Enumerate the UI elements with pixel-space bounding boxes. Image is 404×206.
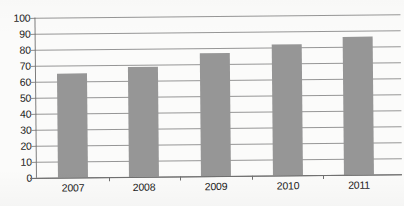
y-axis-labels: 0102030405060708090100	[0, 0, 32, 206]
scan-tilt-wrapper: 0102030405060708090100 20072008200920102…	[0, 0, 404, 206]
y-tick-label: 0	[0, 173, 32, 184]
x-tick-mark	[109, 177, 110, 181]
bar-chart-screenshot: 0102030405060708090100 20072008200920102…	[0, 0, 404, 206]
plot-area	[35, 14, 395, 177]
y-tick-label: 90	[0, 29, 31, 40]
y-tick-label: 50	[0, 93, 31, 104]
y-tick-label: 60	[0, 77, 31, 88]
y-tick-label: 10	[0, 157, 32, 168]
bar	[200, 53, 231, 176]
y-tick-label: 80	[0, 45, 31, 56]
bar	[271, 44, 302, 175]
bar	[57, 73, 88, 177]
bar	[343, 37, 374, 175]
y-tick-label: 30	[0, 125, 32, 136]
x-tick-label: 2011	[348, 180, 370, 191]
x-tick-label: 2010	[277, 180, 300, 191]
x-tick-label: 2009	[205, 181, 228, 192]
x-tick-mark	[252, 176, 253, 180]
x-tick-mark	[323, 175, 324, 179]
chart-figure: 0102030405060708090100 20072008200920102…	[0, 0, 404, 206]
x-tick-label: 2007	[62, 182, 85, 193]
y-tick-label: 20	[0, 141, 32, 152]
y-tick-label: 40	[0, 109, 31, 120]
x-tick-mark	[180, 176, 181, 180]
y-tick-label: 70	[0, 61, 31, 72]
bar	[128, 66, 159, 177]
y-tick-label: 100	[0, 13, 30, 24]
x-tick-label: 2008	[133, 182, 156, 193]
